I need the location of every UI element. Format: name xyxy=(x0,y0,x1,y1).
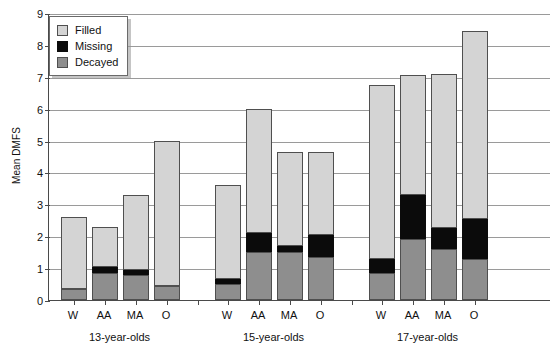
x-tick-mark xyxy=(74,300,75,305)
bar-segment-filled xyxy=(308,152,334,235)
y-tick-label: 1 xyxy=(37,264,43,275)
bar-segment-missing xyxy=(431,228,457,249)
y-tick-mark xyxy=(45,14,50,15)
bar-segment-filled xyxy=(369,85,395,259)
legend-label-filled: Filled xyxy=(75,25,101,36)
legend-label-decayed: Decayed xyxy=(75,57,118,68)
bar-17-year-olds-MA xyxy=(431,74,457,300)
bar-segment-decayed xyxy=(400,239,426,300)
legend-item-filled: Filled xyxy=(57,22,118,38)
bar-segment-decayed xyxy=(123,275,149,301)
x-tick-mark xyxy=(475,300,476,305)
x-tick-mark xyxy=(259,300,260,305)
y-tick-label: 3 xyxy=(37,200,43,211)
bar-13-year-olds-W xyxy=(61,217,87,300)
bar-15-year-olds-W xyxy=(215,185,241,300)
y-tick-label: 4 xyxy=(37,168,43,179)
legend-swatch-decayed-icon xyxy=(57,57,68,68)
bar-segment-decayed xyxy=(369,273,395,300)
bar-segment-missing xyxy=(246,233,272,252)
x-category-label: O xyxy=(454,309,494,321)
bar-segment-decayed xyxy=(92,273,118,300)
bar-15-year-olds-MA xyxy=(277,152,303,300)
gridline xyxy=(49,14,550,15)
bar-segment-filled xyxy=(61,217,87,289)
bar-15-year-olds-O xyxy=(308,152,334,300)
bar-segment-filled xyxy=(246,109,272,233)
x-group-label: 13-year-olds xyxy=(40,331,200,343)
bar-segment-decayed xyxy=(431,249,457,300)
bar-segment-filled xyxy=(123,195,149,270)
bar-segment-missing xyxy=(462,219,488,259)
x-tick-mark xyxy=(321,300,322,305)
bar-segment-filled xyxy=(92,227,118,267)
x-tick-mark xyxy=(290,300,291,305)
y-tick-label: 6 xyxy=(37,104,43,115)
legend-item-decayed: Decayed xyxy=(57,54,118,70)
legend-swatch-missing-icon xyxy=(57,41,68,52)
x-tick-mark xyxy=(167,300,168,305)
x-group-separator-tick xyxy=(352,300,353,305)
x-tick-mark xyxy=(413,300,414,305)
x-tick-mark xyxy=(228,300,229,305)
y-tick-mark xyxy=(45,269,50,270)
y-tick-mark xyxy=(45,173,50,174)
legend-label-missing: Missing xyxy=(75,41,112,52)
legend-swatch-filled-icon xyxy=(57,25,68,36)
y-tick-mark xyxy=(45,110,50,111)
y-tick-label: 2 xyxy=(37,232,43,243)
bar-segment-missing xyxy=(369,259,395,273)
bar-segment-filled xyxy=(400,75,426,195)
bar-17-year-olds-W xyxy=(369,85,395,300)
x-category-label: O xyxy=(300,309,340,321)
bar-13-year-olds-AA xyxy=(92,227,118,300)
bar-segment-filled xyxy=(277,152,303,246)
bar-segment-decayed xyxy=(462,259,488,300)
bar-segment-filled xyxy=(154,141,180,286)
y-axis-title: Mean DMFS xyxy=(11,96,22,216)
x-group-separator-tick xyxy=(198,300,199,305)
bar-chart: Mean DMFS 0123456789 WAAMAOWAAMAOWAAMAO1… xyxy=(0,0,560,349)
y-tick-label: 8 xyxy=(37,40,43,51)
x-tick-mark xyxy=(444,300,445,305)
chart-legend: Filled Missing Decayed xyxy=(49,16,128,76)
bar-segment-filled xyxy=(215,185,241,279)
bar-13-year-olds-MA xyxy=(123,195,149,300)
y-tick-label: 7 xyxy=(37,72,43,83)
bar-13-year-olds-O xyxy=(154,141,180,300)
bar-segment-decayed xyxy=(246,252,272,300)
legend-item-missing: Missing xyxy=(57,38,118,54)
bar-segment-filled xyxy=(462,31,488,219)
x-group-label: 17-year-olds xyxy=(348,331,508,343)
bar-segment-decayed xyxy=(308,257,334,300)
bar-15-year-olds-AA xyxy=(246,109,272,300)
y-tick-mark xyxy=(45,205,50,206)
bar-17-year-olds-AA xyxy=(400,75,426,300)
bar-17-year-olds-O xyxy=(462,31,488,300)
bar-segment-decayed xyxy=(154,286,180,300)
bar-segment-filled xyxy=(431,74,457,229)
x-tick-mark xyxy=(136,300,137,305)
bar-segment-missing xyxy=(308,235,334,257)
bar-segment-decayed xyxy=(277,252,303,300)
bar-segment-missing xyxy=(400,195,426,240)
y-tick-label: 5 xyxy=(37,136,43,147)
bar-segment-decayed xyxy=(215,284,241,300)
y-tick-mark xyxy=(45,301,50,302)
x-tick-mark xyxy=(382,300,383,305)
y-tick-label: 9 xyxy=(37,9,43,20)
y-tick-mark xyxy=(45,142,50,143)
y-tick-mark xyxy=(45,78,50,79)
y-tick-mark xyxy=(45,237,50,238)
x-category-label: O xyxy=(146,309,186,321)
x-group-label: 15-year-olds xyxy=(194,331,354,343)
bar-segment-decayed xyxy=(61,289,87,300)
y-tick-label: 0 xyxy=(37,296,43,307)
x-tick-mark xyxy=(105,300,106,305)
